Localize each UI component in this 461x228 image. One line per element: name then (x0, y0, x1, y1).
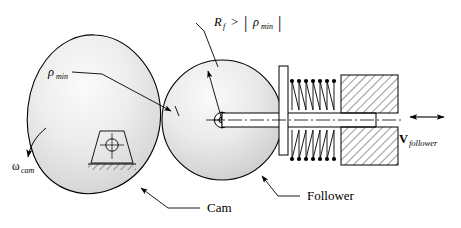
omega-subscript: cam (21, 166, 35, 175)
rf-relation: > (231, 15, 238, 29)
follower-callout-leader (262, 176, 300, 196)
spring-retainer-flange (279, 66, 288, 155)
omega-cam-label: ω cam (12, 160, 35, 175)
rho-min-subscript: min (56, 72, 68, 81)
v-subscript: follower (409, 138, 438, 148)
ground-hatch (88, 164, 136, 170)
rf-rho-subscript: min (261, 22, 273, 31)
rf-rho: ρ (252, 15, 259, 29)
rf-bar-right: | (278, 13, 281, 32)
flange-plate (279, 66, 288, 155)
cam-follower-diagram: R f > | ρ min | ρ min ω cam V follower C… (0, 0, 461, 228)
follower-label: Follower (307, 188, 355, 203)
rf-condition-label: R f > | ρ min | (213, 13, 281, 32)
v-follower-label: V follower (399, 132, 438, 148)
omega-symbol: ω (12, 160, 20, 172)
figure-canvas: R f > | ρ min | ρ min ω cam V follower C… (0, 0, 461, 228)
housing-lower-block (341, 127, 398, 165)
housing-upper-block (341, 75, 398, 113)
v-symbol: V (399, 132, 408, 146)
rf-symbol: R (213, 15, 222, 29)
rf-subscript: f (223, 22, 227, 31)
cam-label: Cam (207, 200, 232, 215)
rho-min-symbol: ρ (47, 65, 54, 79)
cam-callout-leader (141, 188, 200, 208)
rf-bar-left: | (244, 13, 247, 32)
